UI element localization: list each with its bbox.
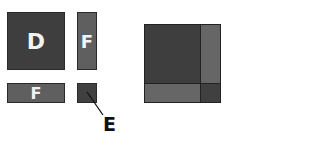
assembled-f-horizontal: [145, 83, 200, 102]
assembled-f-vertical: [200, 25, 220, 83]
assembled-e-square: [200, 83, 220, 102]
callout-label-e: E: [103, 113, 116, 135]
assembled-square: [144, 24, 221, 103]
